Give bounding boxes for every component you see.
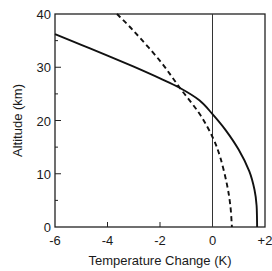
plot-area: -6-4-20+2010203040Temperature Change (K)… — [10, 7, 272, 268]
plot-frame — [55, 14, 265, 227]
x-tick-label: -2 — [154, 233, 166, 248]
chart-svg: -6-4-20+2010203040Temperature Change (K)… — [0, 0, 272, 271]
series-dashed-line — [117, 14, 232, 227]
x-tick-label: +2 — [258, 233, 272, 248]
y-tick-label: 30 — [37, 60, 51, 75]
y-axis-label: Altitude (km) — [10, 84, 25, 157]
series-solid-line — [55, 34, 257, 227]
y-tick-label: 20 — [37, 114, 51, 129]
x-tick-label: 0 — [209, 233, 216, 248]
y-tick-label: 0 — [44, 220, 51, 235]
x-tick-label: -4 — [102, 233, 114, 248]
y-tick-label: 40 — [37, 7, 51, 22]
x-tick-label: -6 — [49, 233, 61, 248]
y-tick-label: 10 — [37, 167, 51, 182]
x-axis-label: Temperature Change (K) — [88, 253, 231, 268]
